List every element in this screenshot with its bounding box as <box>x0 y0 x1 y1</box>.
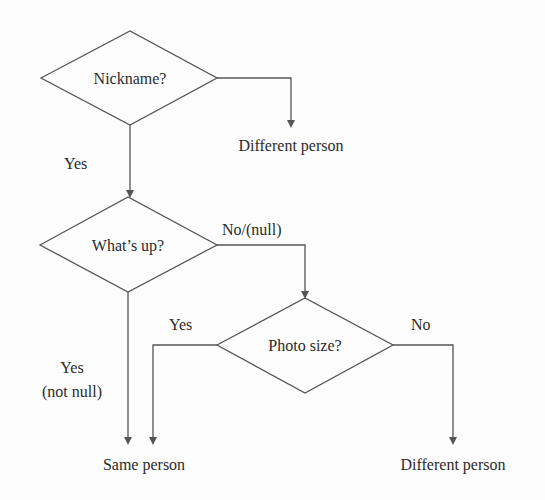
outcome-different-person-top: Different person <box>239 138 344 154</box>
edge-nickname-no <box>217 78 291 122</box>
edge-whatsup-no <box>217 245 305 294</box>
edge-label-nickname-yes: Yes <box>64 156 87 172</box>
flowchart: Nickname? What’s up? Photo size? Differe… <box>0 0 545 500</box>
decision-photosize-label: Photo size? <box>268 338 341 354</box>
outcome-different-person-bottom: Different person <box>401 457 506 473</box>
edge-label-photo-yes: Yes <box>169 317 192 333</box>
edge-label-whatsup-yes-line2: (not null) <box>42 384 102 400</box>
edge-label-whatsup-yes-line1: Yes <box>60 360 83 376</box>
flowchart-shapes <box>0 0 545 500</box>
arrowheads <box>124 120 457 445</box>
edge-label-whatsup-no: No/(null) <box>222 222 282 238</box>
edge-photo-no <box>393 345 453 440</box>
edge-photo-yes <box>153 345 217 440</box>
decision-nickname-label: Nickname? <box>94 71 167 87</box>
decision-whatsup-label: What’s up? <box>92 238 164 254</box>
edge-label-photo-no: No <box>411 317 431 333</box>
outcome-same-person: Same person <box>103 457 185 473</box>
